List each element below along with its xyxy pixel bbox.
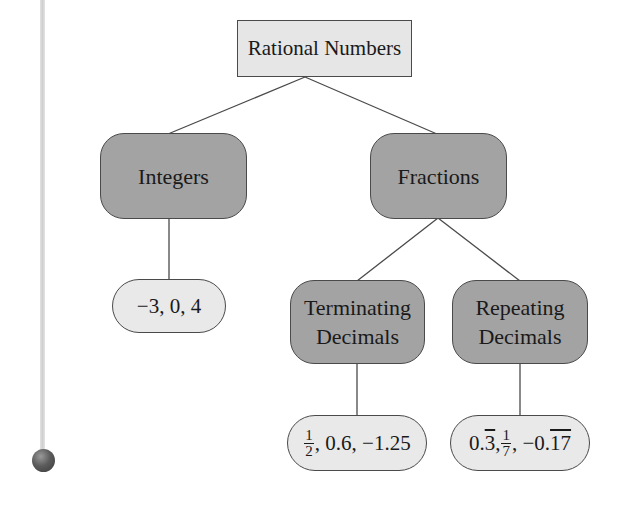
integers-example: −3, 0, 4 (112, 279, 226, 333)
terminating-example: 1 2 , 0.6, −1.25 (287, 415, 427, 471)
repeating-label-line2: Decimals (475, 322, 564, 351)
fractions-label: Fractions (398, 162, 480, 191)
node-terminating-decimals: Terminating Decimals (290, 280, 425, 364)
fraction-one-half: 1 2 (304, 428, 314, 459)
integers-label: Integers (138, 162, 209, 191)
node-integers: Integers (100, 133, 247, 219)
root-label: Rational Numbers (248, 36, 401, 61)
integers-example-text: −3, 0, 4 (137, 294, 201, 319)
terminating-example-rest: , 0.6, −1.25 (315, 431, 411, 456)
terminating-label-line2: Decimals (304, 322, 411, 351)
terminating-label-line1: Terminating (304, 293, 411, 322)
root-node-rational-numbers: Rational Numbers (237, 20, 412, 77)
repeating-example: 0.3, 1 7 , −0.17 (450, 415, 590, 471)
node-fractions: Fractions (370, 133, 507, 219)
fraction-one-seventh: 1 7 (501, 428, 511, 459)
repeating-digit-3: 3 (485, 431, 496, 456)
repeating-label-line1: Repeating (475, 293, 564, 322)
node-repeating-decimals: Repeating Decimals (452, 280, 588, 364)
repeating-digits-17: 17 (550, 431, 571, 456)
